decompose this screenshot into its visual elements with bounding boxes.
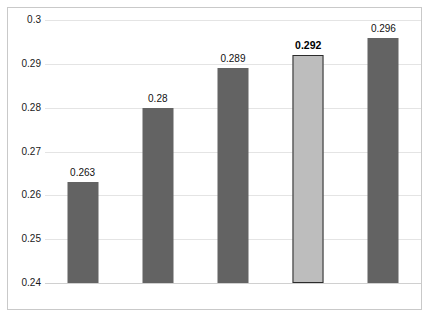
x-axis-label-slot: Germany [195, 40, 270, 322]
x-axis-label-slot: FRANCE [271, 40, 346, 322]
x-axis-label-slot: Sweden [120, 40, 195, 322]
y-tick-label: 0.26 [22, 190, 41, 200]
y-tick-label: 0.27 [22, 147, 41, 157]
y-tick-label: 0.24 [22, 278, 41, 288]
y-tick-label: 0.25 [22, 234, 41, 244]
bar-chart: 0.3 0.29 0.28 0.27 0.26 0.25 0.24 0.263 … [0, 0, 430, 322]
x-axis-label-slot: Denmark [45, 40, 120, 322]
y-tick-label: 0.28 [22, 103, 41, 113]
y-tick-label: 0.3 [27, 15, 41, 25]
x-axis-label-slot: The Netherlands [346, 40, 421, 322]
x-axis-category-labels: Denmark Sweden Germany FRANCE The Nether… [45, 20, 421, 322]
y-tick-label: 0.29 [22, 59, 41, 69]
y-axis-tick-labels: 0.3 0.29 0.28 0.27 0.26 0.25 0.24 [0, 0, 41, 322]
